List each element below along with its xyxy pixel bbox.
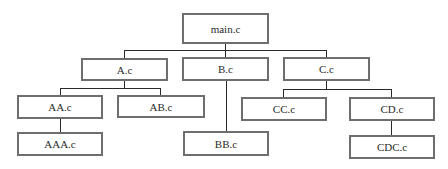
node-label: AB.c	[150, 101, 173, 113]
node-cd-c: CD.c	[349, 97, 435, 121]
node-label: C.c	[319, 63, 334, 75]
connector-a-bar	[60, 88, 161, 89]
node-bb-c: BB.c	[183, 131, 269, 156]
node-label: A.c	[117, 64, 133, 76]
include-tree-diagram: main.c A.c B.c C.c AA.c AB.c AAA.c BB.c …	[0, 0, 448, 169]
connector-c-bar	[283, 89, 392, 90]
connector-to-cd	[391, 89, 392, 97]
node-label: AA.c	[48, 101, 72, 113]
node-cc-c: CC.c	[241, 97, 327, 121]
node-cdc-c: CDC.c	[349, 135, 435, 159]
node-ab-c: AB.c	[117, 95, 205, 118]
node-aaa-c: AAA.c	[17, 132, 103, 156]
connector-to-ab	[160, 88, 161, 95]
connector-cd-to-cdc	[391, 121, 392, 135]
connector-to-a	[124, 50, 125, 58]
node-c-c: C.c	[283, 57, 370, 81]
connector-to-aa	[60, 88, 61, 95]
connector-to-b	[225, 50, 226, 57]
node-label: B.c	[218, 63, 233, 75]
node-label: BB.c	[215, 138, 237, 150]
node-aa-c: AA.c	[17, 95, 103, 119]
node-label: CDC.c	[377, 141, 407, 153]
node-main-c: main.c	[182, 13, 269, 44]
node-label: main.c	[211, 23, 241, 35]
connector-aa-to-aaa	[60, 119, 61, 132]
connector-b-to-bb	[226, 81, 227, 131]
node-label: CD.c	[381, 103, 404, 115]
connector-to-cc	[283, 89, 284, 97]
node-label: AAA.c	[44, 138, 75, 150]
node-label: CC.c	[273, 103, 295, 115]
node-a-c: A.c	[81, 58, 168, 81]
node-b-c: B.c	[182, 57, 269, 81]
connector-to-c	[326, 50, 327, 57]
